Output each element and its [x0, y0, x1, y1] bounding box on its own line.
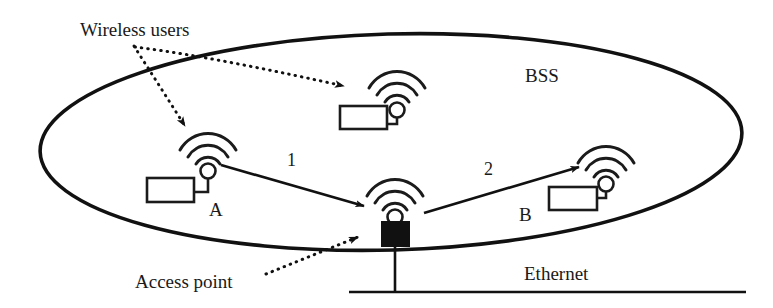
wireless-users-leader-left [134, 46, 185, 126]
flow-2-label: 2 [484, 159, 493, 179]
station-a-label: A [209, 199, 223, 220]
station-top [340, 71, 425, 129]
station-b [549, 146, 634, 210]
station-a [147, 133, 236, 202]
wireless-users-label: Wireless users [80, 19, 190, 40]
ethernet-label: Ethernet [524, 263, 589, 284]
flow-1-arrow [221, 165, 364, 206]
station-b-label: B [519, 204, 532, 225]
bss-label: BSS [525, 65, 559, 86]
access-point [367, 179, 423, 292]
flow-1-label: 1 [287, 150, 296, 170]
access-point-leader [266, 237, 358, 274]
figure-canvas: BSS Wireless users [0, 0, 773, 308]
access-point-label: Access point [135, 271, 233, 292]
network-diagram: BSS Wireless users [0, 0, 773, 308]
